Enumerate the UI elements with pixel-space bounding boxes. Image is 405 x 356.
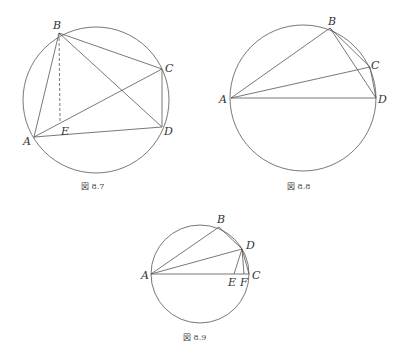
segment-BC [330, 28, 370, 67]
segment-AD [151, 249, 242, 274]
segment-AB [151, 227, 219, 274]
label-A: A [140, 269, 149, 282]
label-C: C [252, 269, 261, 282]
segment-BD [219, 227, 242, 249]
label-D: D [377, 93, 387, 106]
segment-BD [330, 28, 376, 98]
figure-8-8: B C D A 図 8.8 [218, 15, 387, 191]
segment-BC [59, 33, 162, 69]
geometry-figures: B C D A E 図 8.7 B C D A 図 8.8 B D C E F … [0, 0, 405, 356]
segment-BE [59, 33, 60, 121]
segment-AB [231, 28, 330, 98]
caption: 図 8.7 [81, 182, 104, 191]
label-D: D [245, 239, 255, 252]
label-C: C [165, 62, 174, 75]
label-D: D [163, 125, 173, 138]
segment-AD [34, 127, 162, 137]
label-E: E [227, 276, 236, 289]
label-B: B [216, 213, 225, 226]
circle [23, 27, 169, 173]
caption: 図 8.9 [183, 333, 206, 342]
label-A: A [22, 135, 31, 148]
label-C: C [371, 59, 380, 72]
figure-8-9: B D C E F A 図 8.9 [140, 213, 261, 342]
segment-DE [234, 249, 242, 274]
segment-AC [231, 67, 370, 98]
label-B: B [52, 19, 61, 32]
label-B: B [327, 15, 336, 28]
segment-AC [34, 69, 162, 137]
label-E: E [60, 125, 69, 138]
label-A: A [218, 93, 227, 106]
label-F: F [239, 276, 248, 289]
caption: 図 8.8 [287, 182, 310, 191]
figure-8-7: B C D A E 図 8.7 [22, 19, 174, 191]
segment-AB [34, 33, 59, 137]
